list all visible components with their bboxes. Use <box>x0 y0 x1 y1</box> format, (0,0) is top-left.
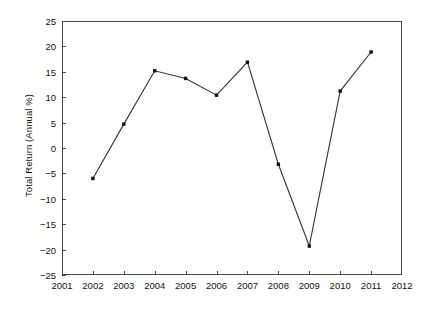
y-tick-mark <box>62 275 66 276</box>
y-tick-mark <box>62 173 66 174</box>
x-tick-mark <box>124 271 125 275</box>
x-tick-mark <box>309 271 310 275</box>
y-tick-mark <box>62 148 66 149</box>
y-tick-mark <box>62 250 66 251</box>
data-point <box>153 69 156 72</box>
y-tick-mark <box>62 21 66 22</box>
y-tick-mark <box>62 97 66 98</box>
data-point <box>184 77 187 80</box>
data-point <box>215 93 218 96</box>
chart-container: Total Return (Annual %) −25−20−15−10−505… <box>0 0 426 313</box>
y-tick-mark <box>62 46 66 47</box>
y-tick-mark <box>62 199 66 200</box>
data-point <box>308 244 311 247</box>
line-path <box>93 52 371 246</box>
data-point <box>369 50 372 53</box>
x-tick-mark <box>186 271 187 275</box>
x-tick-mark <box>217 271 218 275</box>
x-tick-mark <box>340 271 341 275</box>
y-tick-mark <box>62 123 66 124</box>
y-tick-mark <box>62 224 66 225</box>
data-point <box>338 89 341 92</box>
data-point <box>277 163 280 166</box>
data-point-markers <box>91 50 373 247</box>
x-tick-mark <box>155 271 156 275</box>
data-point <box>246 60 249 63</box>
x-tick-mark <box>371 271 372 275</box>
x-tick-mark <box>93 271 94 275</box>
data-point <box>122 122 125 125</box>
y-tick-mark <box>62 72 66 73</box>
x-tick-mark <box>278 271 279 275</box>
data-point <box>91 177 94 180</box>
x-tick-mark <box>247 271 248 275</box>
